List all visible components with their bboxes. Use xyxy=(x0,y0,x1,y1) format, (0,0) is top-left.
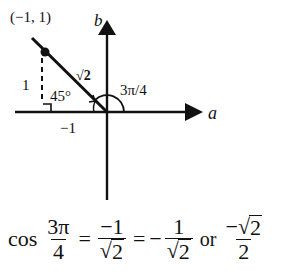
step1-numerator: −1 xyxy=(98,215,125,238)
angle-numerator: 3π xyxy=(45,215,71,238)
angle-denominator: 4 xyxy=(51,239,66,263)
step3-fraction: −√2 2 xyxy=(224,215,265,263)
step2-fraction: 1 √2 xyxy=(165,215,193,263)
negative-sign: − xyxy=(149,226,161,252)
angle-label: 3π/4 xyxy=(120,83,147,98)
cosine-equation: cos 3π 4 = −1 √2 = − 1 √2 or −√2 2 xyxy=(8,205,267,273)
step3-denominator: 2 xyxy=(236,239,251,263)
point-marker xyxy=(41,48,50,57)
or-word: or xyxy=(200,228,217,251)
sqrt-2: √2 xyxy=(238,215,262,239)
a-axis-label: a xyxy=(208,104,217,122)
step2-numerator: 1 xyxy=(171,215,186,238)
hypotenuse-label: √2 xyxy=(76,69,91,83)
equals-sign-1: = xyxy=(78,226,90,252)
point-label: (−1, 1) xyxy=(10,10,51,25)
angle-fraction: 3π 4 xyxy=(45,215,71,262)
sqrt-2: √2 xyxy=(167,239,191,263)
reference-angle-label: 45° xyxy=(50,89,71,104)
axes-svg xyxy=(0,0,284,200)
sqrt-2: √2 xyxy=(100,239,124,263)
vertical-leg-label: 1 xyxy=(22,78,30,93)
unit-circle-diagram: (−1, 1) b a √2 1 45° −1 3π/4 xyxy=(0,0,284,200)
horizontal-leg-label: −1 xyxy=(60,121,76,136)
a-axis-arrow-icon xyxy=(185,103,203,121)
step2-denominator: √2 xyxy=(165,238,193,263)
equals-sign-2: = xyxy=(133,226,145,252)
step1-fraction: −1 √2 xyxy=(98,215,126,263)
step3-numerator: −√2 xyxy=(224,215,265,239)
b-axis-label: b xyxy=(94,12,103,29)
cos-function: cos xyxy=(8,226,37,252)
step1-denominator: √2 xyxy=(98,238,126,263)
